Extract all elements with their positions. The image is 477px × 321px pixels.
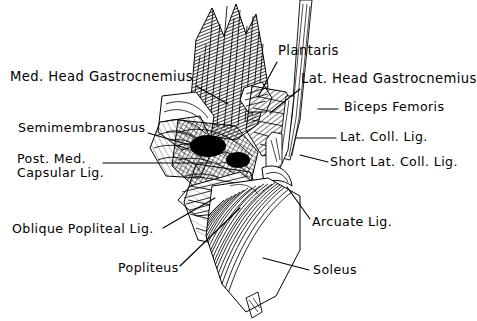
label-line: Plantaris <box>278 44 339 59</box>
leader-line-oblique-popliteal-lig <box>163 198 215 228</box>
leader-line-semimembranosus <box>148 133 214 152</box>
label-arcuate-lig: Arcuate Lig. <box>312 215 392 229</box>
label-line: Post. Med. <box>17 152 104 166</box>
label-line: Soleus <box>313 263 357 277</box>
label-oblique-popliteal-lig: Oblique Popliteal Lig. <box>12 222 154 236</box>
leader-line-plantaris <box>258 62 277 97</box>
leader-line-arcuate-lig <box>287 187 310 219</box>
label-line: Oblique Popliteal Lig. <box>12 222 154 236</box>
label-semimembranosus: Semimembranosus <box>18 121 145 135</box>
label-popliteus: Popliteus <box>118 261 179 275</box>
label-biceps-femoris: Biceps Femoris <box>344 100 444 114</box>
label-line: Semimembranosus <box>18 121 145 135</box>
anatomical-figure: Med. Head GastrocnemiusPlantarisLat. Hea… <box>0 0 477 321</box>
label-plantaris: Plantaris <box>278 44 339 59</box>
label-line: Lat. Head Gastrocnemius <box>301 72 477 87</box>
leader-line-lat-head-gastrocnemius <box>270 89 300 113</box>
label-soleus: Soleus <box>313 263 357 277</box>
label-line: Short Lat. Coll. Lig. <box>330 155 458 169</box>
label-line: Lat. Coll. Lig. <box>340 130 428 144</box>
label-post-med-capsular-lig: Post. Med.Capsular Lig. <box>17 152 104 180</box>
label-line: Popliteus <box>118 261 179 275</box>
label-line: Med. Head Gastrocnemius <box>10 70 193 85</box>
label-line: Biceps Femoris <box>344 100 444 114</box>
leader-line-med-head-gastrocnemius <box>196 86 228 104</box>
label-line: Arcuate Lig. <box>312 215 392 229</box>
leader-line-popliteus <box>180 208 240 266</box>
label-short-lat-coll-lig: Short Lat. Coll. Lig. <box>330 155 458 169</box>
label-lat-coll-lig: Lat. Coll. Lig. <box>340 130 428 144</box>
leader-line-soleus <box>263 258 309 270</box>
label-med-head-gastrocnemius: Med. Head Gastrocnemius <box>10 70 193 85</box>
label-lat-head-gastrocnemius: Lat. Head Gastrocnemius <box>301 72 477 87</box>
leader-line-short-lat-coll-lig <box>300 155 328 162</box>
label-line: Capsular Lig. <box>17 166 104 180</box>
